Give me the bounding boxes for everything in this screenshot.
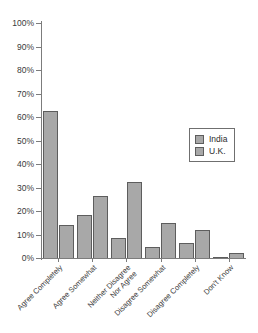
y-axis-tick-label: 20% [17,207,34,216]
bar-india [43,111,58,258]
bar-uk [229,253,244,258]
y-axis-tick-label: 80% [17,66,34,75]
y-axis-tick-label: 30% [17,183,34,192]
legend-swatch-icon [195,147,204,156]
bar-uk [59,225,74,258]
legend-swatch-icon [195,135,204,144]
legend-item-uk: U.K. [195,145,227,157]
legend-label: India [209,135,227,144]
y-axis-tick-label: 100% [12,19,34,28]
bar-group [41,23,75,258]
bar-india [77,215,92,258]
y-axis-tick-label: 40% [17,160,34,169]
x-axis-category-labels: Agree CompletelyAgree SomewhatNeither Di… [41,259,246,333]
chart-legend: India U.K. [189,128,235,162]
y-axis-tick-label: 90% [17,42,34,51]
bar-group [144,23,178,258]
bar-uk [195,230,210,258]
bar-uk [161,223,176,258]
y-axis-tick-label: 60% [17,113,34,122]
y-axis-tick-label: 10% [17,230,34,239]
bar-india [111,238,126,258]
y-axis-tick-label: 70% [17,89,34,98]
y-axis-tick-label: 50% [17,136,34,145]
bar-uk [127,182,142,258]
legend-item-india: India [195,133,227,145]
y-axis-tick-label: 0% [22,254,34,263]
bar-group [109,23,143,258]
bar-chart: 0%10%20%30%40%50%60%70%80%90%100% Agree … [0,0,258,333]
bar-india [145,247,160,258]
bar-india [179,243,194,258]
bar-india [213,257,228,258]
legend-label: U.K. [209,147,226,156]
bar-group [75,23,109,258]
bar-uk [93,196,108,258]
